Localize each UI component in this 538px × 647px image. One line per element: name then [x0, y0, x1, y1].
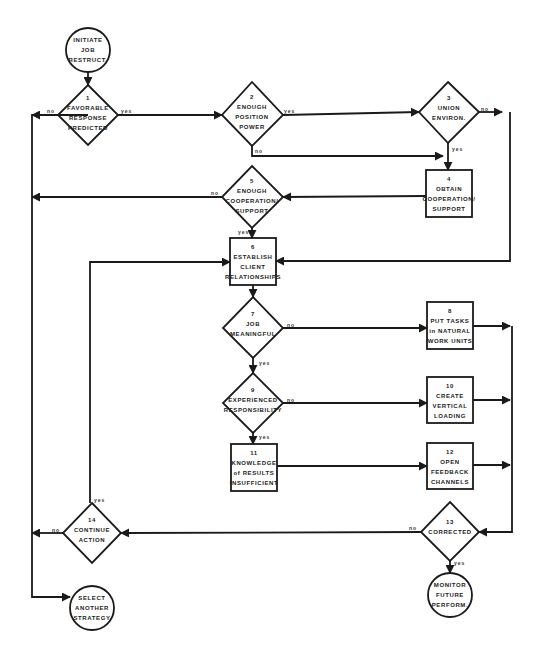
node-text: in NATURAL: [429, 326, 471, 336]
node-text: FUTURE: [436, 590, 464, 600]
node-1-favorable-response: 1 FAVORABLE RESPONSE PREDICTED: [58, 88, 118, 138]
node-text: EXPERIENCED: [228, 395, 278, 405]
node-text: FAVORABLE: [67, 103, 109, 113]
node-4-obtain-cooperation: 4 OBTAIN COOPERATION/ SUPPORT: [426, 172, 472, 216]
node-text: ESTABLISH: [234, 252, 273, 262]
node-text: RELATIONSHIPS: [225, 272, 281, 282]
node-text: PUT TASKS: [431, 316, 470, 326]
node-text: OPEN: [440, 457, 459, 467]
node-number: 14: [88, 515, 96, 525]
node-10-create-vertical-loading: 10 CREATE VERTICAL LOADING: [427, 379, 473, 423]
node-11-knowledge-of-results: 11 KNOWLEDGE of RESULTS INSUFFICIENT: [231, 446, 277, 490]
node-number: 12: [446, 447, 454, 457]
edge-label-n1-yes: yes: [121, 108, 132, 114]
node-select-another-strategy: SELECT ANOTHER STRATEGY: [70, 590, 114, 626]
edge-label-n9-no: no: [287, 397, 295, 403]
node-text: SUPPORT: [235, 206, 268, 216]
node-text: RESPONSIBILITY: [224, 405, 282, 415]
node-text: PERFORM.: [432, 600, 468, 610]
node-14-continue-action: 14 CONTINUE ACTION: [63, 510, 121, 550]
node-number: 3: [447, 93, 451, 103]
node-text: ENOUGH: [237, 102, 267, 112]
edge-label-n13-yes: yes: [454, 560, 465, 566]
node-number: 10: [446, 381, 454, 391]
node-text: UNION: [438, 103, 460, 113]
node-monitor-future-perform: MONITOR FUTURE PERFORM.: [428, 577, 472, 613]
node-text: POSITION: [235, 112, 268, 122]
node-text: ENOUGH: [237, 186, 267, 196]
node-number: 7: [251, 309, 255, 319]
node-7-job-meaningful: 7 JOB MEANINGFUL: [223, 304, 283, 344]
node-text: SUPPORT: [432, 204, 465, 214]
node-number: 9: [251, 385, 255, 395]
node-9-experienced-responsibility: 9 EXPERIENCED RESPONSIBILITY: [223, 380, 283, 420]
node-12-open-feedback-channels: 12 OPEN FEEDBACK CHANNELS: [427, 445, 473, 489]
node-text: OBTAIN: [436, 184, 462, 194]
node-text: COOPERATION/: [422, 194, 475, 204]
node-text: COOPERATION/: [225, 196, 278, 206]
node-text: MONITOR: [434, 580, 466, 590]
node-text: STRATEGY: [73, 613, 110, 623]
edge-label-n14-no: no: [52, 527, 60, 533]
node-text: INSUFFICIENT: [230, 478, 279, 488]
node-text: INITIATE: [73, 35, 102, 45]
node-text: KNOWLEDGE: [231, 458, 276, 468]
node-5-enough-cooperation: 5 ENOUGH COOPERATION/ SUPPORT: [222, 170, 282, 222]
edge-label-n5-no: no: [211, 190, 219, 196]
node-text: POWER: [239, 122, 265, 132]
node-2-enough-position-power: 2 ENOUGH POSITION POWER: [222, 86, 282, 138]
node-text: ANOTHER: [75, 603, 109, 613]
node-text: CORRECTED: [428, 527, 471, 537]
node-number: 13: [446, 517, 454, 527]
edge-label-n1-no: no: [47, 108, 55, 114]
edge-label-n14-yes: yes: [94, 497, 105, 503]
node-number: 4: [447, 174, 451, 184]
node-number: 8: [448, 306, 452, 316]
node-text: CLIENT: [240, 262, 265, 272]
flowchart-canvas: INITIATE JOB RESTRUCT. 1 FAVORABLE RESPO…: [0, 0, 538, 647]
node-13-corrected: 13 CORRECTED: [421, 512, 479, 542]
node-text: CREATE: [436, 391, 464, 401]
node-text: CHANNELS: [431, 477, 469, 487]
node-text: RESTRUCT.: [68, 55, 107, 65]
node-text: VERTICAL: [433, 401, 468, 411]
node-text: CONTINUE: [74, 525, 110, 535]
node-number: 2: [250, 92, 254, 102]
node-text: FEEDBACK: [431, 467, 469, 477]
edge-label-n5-yes: yes: [238, 229, 249, 235]
edge-label-n3-no: no: [481, 106, 489, 112]
node-number: 6: [251, 242, 255, 252]
node-text: of RESULTS: [234, 468, 275, 478]
node-text: LOADING: [434, 411, 466, 421]
node-initiate-job-restruct: INITIATE JOB RESTRUCT.: [66, 32, 110, 68]
node-8-put-tasks-natural-work-units: 8 PUT TASKS in NATURAL WORK UNITS: [427, 304, 473, 348]
node-6-establish-client-relationships: 6 ESTABLISH CLIENT RELATIONSHIPS: [230, 240, 276, 284]
edge-label-n2-no: no: [255, 148, 263, 154]
node-text: MEANINGFUL: [230, 329, 276, 339]
edge-label-n3-yes: yes: [452, 146, 463, 152]
edge-label-n7-yes: yes: [259, 360, 270, 366]
node-text: SELECT: [78, 593, 105, 603]
node-text: ENVIRON.: [432, 113, 466, 123]
edge-label-n2-yes: yes: [284, 108, 295, 114]
node-text: WORK UNITS: [428, 336, 473, 346]
node-text: PREDICTED: [68, 123, 108, 133]
node-text: JOB: [81, 45, 95, 55]
edge-label-n7-no: no: [287, 322, 295, 328]
node-text: JOB: [246, 319, 260, 329]
node-number: 1: [86, 93, 90, 103]
node-text: RESPONSE: [69, 113, 107, 123]
edge-label-n13-no: no: [409, 525, 417, 531]
node-number: 5: [250, 176, 254, 186]
edge-label-n9-yes: yes: [259, 434, 270, 440]
node-3-union-environ: 3 UNION ENVIRON.: [419, 88, 479, 128]
node-text: ACTION: [79, 535, 106, 545]
node-number: 11: [250, 448, 258, 458]
